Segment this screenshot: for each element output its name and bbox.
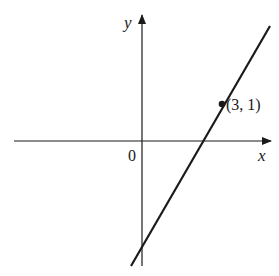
x-axis-label: x xyxy=(257,146,266,165)
point-label: (3, 1) xyxy=(226,96,261,114)
graph-line xyxy=(131,26,270,266)
y-axis-label: y xyxy=(122,13,132,32)
origin-label: 0 xyxy=(128,147,136,164)
coordinate-plane: y x 0 (3, 1) xyxy=(0,0,279,276)
point-marker xyxy=(219,101,226,108)
